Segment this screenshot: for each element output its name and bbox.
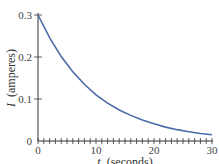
y-tick-label: 0.3	[18, 9, 32, 21]
current-decay-curve	[38, 15, 212, 135]
y-tick-label: 0	[27, 135, 33, 147]
x-tick-label: 30	[207, 144, 219, 156]
y-axis-title: I (amperes)	[4, 49, 18, 108]
axes	[34, 13, 213, 144]
x-axis-title: t (seconds)	[97, 155, 152, 164]
y-tick-label: 0.2	[18, 51, 32, 63]
y-tick-label: 0.1	[18, 93, 32, 105]
axis-labels: 010203000.10.20.3	[18, 9, 218, 156]
x-tick-label: 0	[35, 144, 41, 156]
chart: 010203000.10.20.3 I (amperes) t (seconds…	[0, 0, 218, 164]
